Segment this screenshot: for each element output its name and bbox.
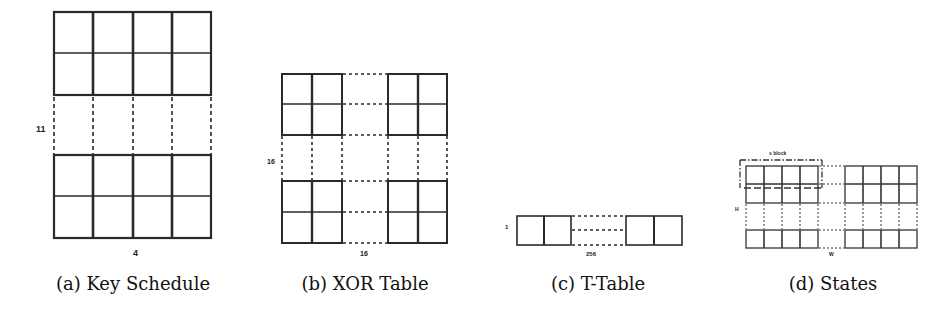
xor-table-bottom-right-grid (388, 181, 447, 243)
t-table-col-label: 256 (586, 251, 597, 257)
key-schedule-ellipsis-rows (54, 97, 211, 154)
t-table-row-label: 1 (505, 224, 509, 230)
states-row-label: H (735, 206, 739, 212)
key-schedule-col-label: 4 (133, 248, 138, 258)
states-block-label: s block (769, 150, 786, 156)
states-bottom-left-grid (746, 230, 818, 248)
t-table-right-cells (626, 216, 682, 245)
xor-table-row-label: 16 (267, 158, 275, 165)
states-caption: (d) States (789, 273, 878, 294)
states-top-right-grid (845, 166, 917, 203)
states-bottom-right-grid (845, 230, 917, 248)
states-col-label: W (829, 251, 834, 257)
xor-table-top-right-grid (388, 74, 447, 135)
t-table-ellipsis-cols (572, 216, 625, 245)
xor-table-diagram (282, 74, 447, 243)
key-schedule-bottom-grid (54, 155, 211, 238)
xor-table-top-left-grid (282, 74, 342, 135)
states-ellipsis-rows (746, 204, 917, 229)
states-top-left-grid (746, 166, 818, 203)
xor-table-ellipsis-rows (282, 136, 447, 180)
figure-canvas: 11 4 (a) Key Schedule (0, 0, 950, 313)
key-schedule-caption: (a) Key Schedule (56, 273, 210, 294)
t-table-diagram (517, 216, 682, 245)
states-diagram (740, 160, 917, 248)
xor-table-bottom-left-grid (282, 181, 342, 243)
xor-table-col-label: 16 (360, 250, 368, 257)
states-ellipsis-cols (819, 166, 844, 248)
key-schedule-top-grid (54, 12, 211, 95)
t-table-left-cells (517, 216, 571, 245)
t-table-caption: (c) T-Table (551, 273, 645, 294)
key-schedule-diagram (54, 12, 211, 238)
xor-table-ellipsis-cols (343, 74, 387, 243)
xor-table-caption: (b) XOR Table (301, 273, 428, 294)
key-schedule-row-label: 11 (36, 124, 46, 134)
